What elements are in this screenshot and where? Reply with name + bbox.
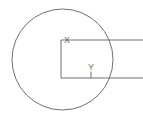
y-axis-label: Y	[88, 62, 94, 72]
x-axis-label: X	[64, 35, 70, 45]
circle-shape	[12, 9, 113, 110]
diagram-svg: X Y	[0, 0, 143, 121]
diagram-canvas: X Y	[0, 0, 143, 121]
